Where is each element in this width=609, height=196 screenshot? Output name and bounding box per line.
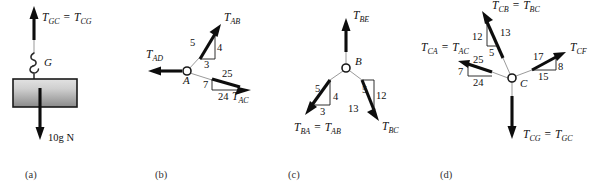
label-T-CG: TCG=TGC [523,128,573,143]
label-T-CF: TCF [570,41,587,56]
label-c-5-left: 5 [315,83,320,94]
label-b-4: 4 [217,42,223,53]
label-b-25: 25 [222,68,233,79]
suspended-block [13,79,77,107]
label-d-25: 25 [473,54,484,65]
label-T-GC: TGC=TCG [42,11,92,26]
label-b-3: 3 [204,59,209,70]
label-T-CB: TCB=TBC [492,0,540,14]
label-c-3: 3 [320,106,325,117]
force-arrow-T-AD [148,67,182,76]
label-b-5: 5 [190,37,195,48]
caption-c: (c) [288,169,300,181]
label-c-5-right: 5 [362,84,367,95]
label-c-4: 4 [333,91,339,102]
label-node-A: A [182,74,190,86]
label-d-13: 13 [500,27,511,38]
label-T-AB: TAB [224,11,240,26]
force-arrow-T-GC [30,6,39,40]
label-b-7: 7 [203,79,208,90]
label-weight: 10g N [48,132,74,143]
label-T-AD: TAD [146,48,163,63]
label-d-24: 24 [473,77,484,88]
label-d-7: 7 [458,66,463,77]
hook-icon [30,53,38,79]
label-d-5: 5 [489,47,494,58]
label-node-G: G [44,56,52,68]
label-c-12: 12 [376,90,387,101]
label-d-8: 8 [558,61,563,72]
panel-b: TAB TAD TAC 5 4 3 25 7 24 A (b) [146,11,251,181]
panel-d: TCB=TBC TCA=TAC TCF TCG=TGC 12 13 5 25 7… [421,0,587,181]
label-b-24: 24 [218,91,229,102]
caption-d: (d) [440,169,453,181]
construction-line-d-cf [516,70,532,76]
panel-a: TGC=TCG G 10g N (a) [13,6,92,181]
label-node-C: C [520,77,528,89]
label-d-12: 12 [472,31,483,42]
figure-free-body-diagrams: TGC=TCG G 10g N (a) [0,0,609,196]
caption-a: (a) [25,169,37,181]
force-arrow-T-CG [508,96,517,139]
label-T-CA: TCA=TAC [421,41,469,56]
label-c-13: 13 [348,103,359,114]
label-T-BC: TBC [382,120,399,135]
label-node-B: B [355,55,362,67]
construction-line-b-ac [190,73,212,80]
construction-line-c-ba [330,71,343,80]
joint-node-C [508,74,516,82]
label-T-BA: TBA=TAB [294,121,341,136]
panel-c: TBE TBA=TAB TBC 5 4 3 5 12 13 B (c) [288,9,399,181]
label-T-BE: TBE [353,9,369,24]
joint-node-B [342,64,350,72]
label-d-17: 17 [533,51,544,62]
force-arrow-T-BE [342,18,351,52]
construction-line-d-ca [492,72,508,78]
construction-line-c-bc [350,71,362,80]
construction-line-d-cb [503,58,510,74]
label-d-15: 15 [538,71,549,82]
caption-b: (b) [155,169,168,181]
